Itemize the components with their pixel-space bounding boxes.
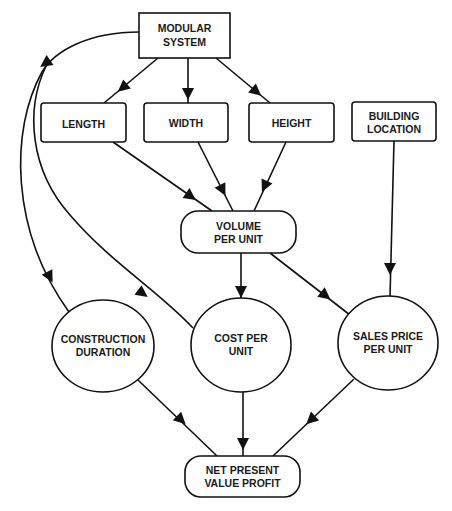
arrowhead-icon: [235, 286, 247, 298]
edge-height-to-volume: [254, 142, 286, 211]
node-label: LOCATION: [367, 123, 421, 135]
node-label: PER UNIT: [214, 233, 264, 245]
node-label: LENGTH: [62, 118, 105, 130]
edge-length-to-volume: [113, 142, 212, 211]
node-building-location: BUILDING LOCATION: [352, 102, 436, 141]
node-label: COST PER: [214, 332, 268, 344]
node-cost-per-unit: COST PER UNIT: [191, 298, 291, 392]
node-label: MODULAR: [158, 22, 212, 34]
arrowhead-icon: [183, 188, 200, 205]
arrowhead-icon: [237, 438, 249, 450]
node-label: BUILDING: [369, 110, 420, 122]
node-label: DURATION: [76, 346, 131, 358]
arrowhead-icon: [182, 88, 194, 100]
node-label: WIDTH: [169, 117, 203, 129]
node-npv-profit: NET PRESENT VALUE PROFIT: [185, 456, 300, 497]
edge-modular-to-length: [104, 58, 158, 103]
influence-diagram: MODULAR SYSTEM LENGTH WIDTH HEIGHT BUILD…: [0, 0, 452, 511]
node-sales-price-per-unit: SALES PRICE PER UNIT: [338, 296, 438, 390]
node-construction-duration: CONSTRUCTION DURATION: [52, 300, 154, 392]
edge-width-to-volume: [198, 142, 233, 211]
arrowhead-icon: [384, 263, 396, 275]
node-label: VOLUME: [216, 220, 261, 232]
node-label: NET PRESENT: [206, 464, 280, 476]
node-label: VALUE PROFIT: [204, 477, 281, 489]
node-label: HEIGHT: [272, 117, 312, 129]
node-modular-system: MODULAR SYSTEM: [139, 13, 230, 58]
node-length: LENGTH: [41, 103, 126, 142]
edge-modular-to-height: [216, 58, 270, 103]
node-volume-per-unit: VOLUME PER UNIT: [181, 211, 296, 253]
node-label: UNIT: [229, 345, 254, 357]
node-label: PER UNIT: [363, 343, 413, 355]
edge-volume-to-sales: [270, 253, 350, 315]
arrowhead-icon: [173, 412, 190, 429]
node-height: HEIGHT: [249, 103, 334, 142]
node-label: SALES PRICE: [353, 330, 423, 342]
node-label: CONSTRUCTION: [61, 333, 146, 345]
node-width: WIDTH: [144, 103, 228, 142]
arrowhead-icon: [215, 182, 231, 198]
node-label: SYSTEM: [163, 36, 206, 48]
arrowhead-icon: [256, 178, 272, 194]
edge-modular-to-construction: [21, 32, 139, 312]
